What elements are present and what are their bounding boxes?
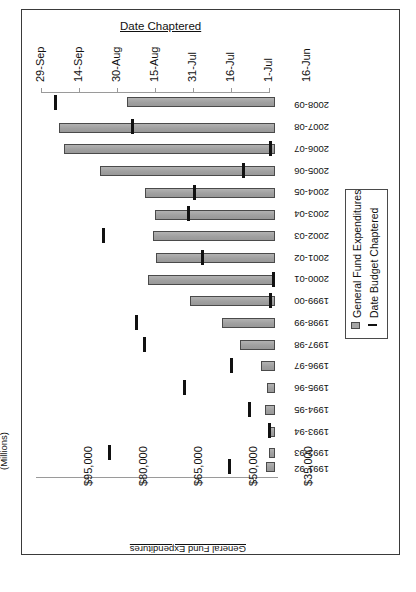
date-axis-tick (117, 88, 118, 93)
marker-date-chaptered (102, 228, 105, 243)
category-label: 1995-96 (294, 383, 329, 394)
date-axis-tick (269, 88, 270, 93)
category-label: 2001-02 (294, 253, 329, 264)
bar-general-fund (153, 231, 275, 241)
marker-date-chaptered (135, 315, 138, 330)
category-label: 1991-92 (294, 464, 329, 475)
date-axis-tick (41, 88, 42, 93)
marker-date-chaptered (230, 358, 233, 373)
category-label: 2005-06 (294, 166, 329, 177)
category-label: 2008-09 (294, 100, 329, 111)
category-label: 1993-94 (294, 427, 329, 438)
bar-general-fund (240, 340, 275, 350)
bar-general-fund (156, 253, 275, 263)
category-label: 1997-98 (294, 340, 329, 351)
bar-general-fund (267, 383, 275, 393)
value-axis-line (36, 477, 278, 478)
marker-date-chaptered (272, 272, 275, 287)
legend-label-date-chaptered: Date Budget Chaptered (368, 208, 380, 318)
category-label: 1999-00 (294, 296, 329, 307)
value-axis-tick-label: $95,000 (82, 446, 94, 486)
category-label: 2000-01 (294, 274, 329, 285)
category-label: 2002-03 (294, 231, 329, 242)
date-axis-tick-label: 29-Sep (34, 47, 46, 82)
marker-date-chaptered (268, 423, 271, 438)
chart-legend: General Fund Expenditures Date Budget Ch… (345, 189, 388, 339)
marker-date-chaptered (187, 206, 190, 221)
legend-swatch-expenditures (351, 322, 360, 329)
date-axis-tick (231, 88, 232, 93)
bar-general-fund (222, 318, 275, 328)
bar-general-fund (261, 361, 275, 371)
date-axis-title: Date Chaptered (120, 20, 201, 32)
date-axis-tick (79, 88, 80, 93)
date-axis-tick (155, 88, 156, 93)
marker-date-chaptered (183, 380, 186, 395)
bar-general-fund (148, 275, 275, 285)
marker-date-chaptered (269, 141, 272, 156)
bar-general-fund (127, 97, 275, 107)
legend-swatch-date-chaptered (368, 324, 377, 326)
date-axis-tick-label: 1-Jul (262, 58, 274, 82)
value-axis-tick-label: $80,000 (137, 446, 149, 486)
date-axis-tick-label: 16-Jun (300, 48, 312, 82)
marker-date-chaptered (242, 163, 245, 178)
legend-label-expenditures: General Fund Expenditures (351, 190, 363, 318)
bar-general-fund (155, 210, 275, 220)
date-axis-tick-label: 30-Aug (110, 47, 122, 82)
date-axis-tick-label: 14-Sep (72, 47, 84, 82)
category-label: 2004-05 (294, 187, 329, 198)
bar-general-fund (100, 166, 275, 176)
category-label: 2003-04 (294, 209, 329, 220)
date-axis-tick-label: 31-Jul (186, 52, 198, 82)
marker-date-chaptered (269, 293, 272, 308)
bar-general-fund (190, 296, 275, 306)
bar-general-fund (145, 188, 275, 198)
value-axis-tick-label: $65,000 (192, 446, 204, 486)
marker-date-chaptered (228, 459, 231, 474)
category-label: 1994-95 (294, 405, 329, 416)
category-label: 2006-07 (294, 144, 329, 155)
value-axis-tick-label: $50,000 (247, 446, 259, 486)
bar-general-fund (265, 405, 275, 415)
category-label: 1992-93 (294, 448, 329, 459)
bar-general-fund (269, 448, 275, 458)
bar-general-fund (266, 462, 275, 472)
date-axis-tick (193, 88, 194, 93)
date-axis-tick-label: 15-Aug (148, 47, 160, 82)
date-axis-tick-label: 16-Jul (224, 52, 236, 82)
marker-date-chaptered (248, 402, 251, 417)
marker-date-chaptered (193, 185, 196, 200)
category-label: 1996-97 (294, 361, 329, 372)
category-label: 2007-08 (294, 122, 329, 133)
bar-general-fund (59, 123, 275, 133)
marker-date-chaptered (143, 337, 146, 352)
marker-date-chaptered (54, 95, 57, 110)
marker-date-chaptered (108, 445, 111, 460)
bar-general-fund (64, 144, 275, 154)
chart-plot-area: Date Chaptered 29-Sep 14-Sep 30-Aug 15-A… (0, 0, 416, 592)
marker-date-chaptered (201, 250, 204, 265)
category-label: 1998-99 (294, 318, 329, 329)
marker-date-chaptered (131, 119, 134, 134)
figure-side-note: (Millions) (0, 432, 9, 470)
value-axis-title: General Fund Expenditures (130, 544, 246, 555)
